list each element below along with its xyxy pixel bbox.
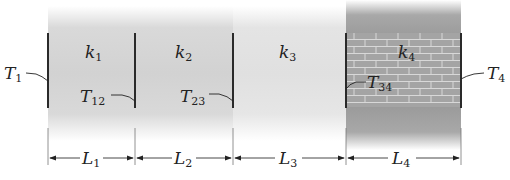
label-k4: k4 [398, 44, 415, 63]
label-k1: k1 [85, 44, 102, 63]
leader-t1 [26, 73, 48, 81]
diagram-lines [0, 0, 510, 180]
leader-t34 [346, 82, 366, 89]
label-k3: k3 [279, 44, 296, 63]
label-l4: L4 [392, 150, 410, 169]
label-l2: L2 [174, 150, 192, 169]
leader-t12 [111, 95, 135, 101]
label-l1: L1 [82, 150, 100, 169]
label-l3: L3 [279, 150, 297, 169]
leader-t4 [461, 73, 484, 79]
label-k2: k2 [175, 44, 192, 63]
label-t23: T23 [180, 88, 205, 107]
label-t34: T34 [367, 74, 392, 93]
label-t12: T12 [80, 88, 105, 107]
label-t1: T1 [4, 65, 22, 84]
leader-t23 [209, 94, 233, 101]
label-t4: T4 [487, 65, 505, 84]
